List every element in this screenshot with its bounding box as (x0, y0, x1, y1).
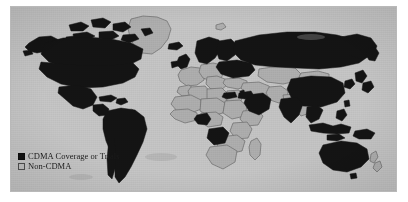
legend-label-cdma-coverage: CDMA Coverage or Trials (28, 152, 120, 161)
country-australia (319, 141, 369, 172)
country-india (279, 97, 303, 123)
region-uk-ireland (171, 54, 190, 69)
legend-label-non-cdma: Non-CDMA (28, 162, 71, 171)
cdma-coverage-figure: CDMA Coverage or Trials Non-CDMA (0, 0, 408, 202)
region-southern-africa (206, 145, 237, 169)
scan-smudge-2 (69, 174, 93, 180)
region-kamchatka (366, 47, 379, 61)
island-tasmania (350, 173, 357, 179)
scan-smudge-3 (297, 34, 325, 40)
country-united-states (39, 62, 139, 88)
island-svalbard (216, 23, 226, 30)
legend-swatch-light-square-icon (18, 163, 25, 170)
region-southeast-asia (306, 105, 323, 123)
country-philippines (336, 109, 347, 121)
region-japan-korea (344, 70, 374, 93)
country-new-zealand (370, 151, 382, 172)
legend-swatch-filled-square-icon (18, 153, 25, 160)
region-guinea-coast (170, 109, 197, 123)
legend-item-cdma-coverage: CDMA Coverage or Trials (18, 152, 120, 161)
world-map-panel: CDMA Coverage or Trials Non-CDMA (11, 7, 396, 191)
country-madagascar (249, 138, 261, 160)
country-taiwan (344, 100, 350, 107)
legend-item-non-cdma: Non-CDMA (18, 162, 120, 171)
country-indonesia (309, 123, 351, 141)
region-caribbean (99, 95, 128, 105)
country-papua-new-guinea (353, 129, 375, 139)
scan-smudge-1 (145, 153, 177, 161)
map-legend: CDMA Coverage or Trials Non-CDMA (18, 152, 120, 172)
country-iceland (168, 42, 183, 50)
